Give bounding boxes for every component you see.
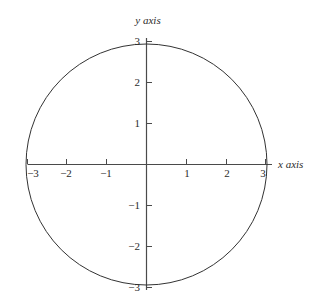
- x-axis-label: x axis: [277, 158, 303, 170]
- y-tick-label-pos3: 3: [135, 35, 141, 47]
- x-tick-label-neg3: −3: [27, 167, 39, 179]
- x-tick-label-pos2: 2: [224, 167, 230, 179]
- y-axis-label: y axis: [134, 14, 160, 26]
- y-tick-label-neg2: −2: [128, 240, 140, 252]
- x-tick-label-neg2: −2: [60, 167, 72, 179]
- y-tick-label-neg3: −3: [128, 281, 140, 293]
- y-tick-label-pos1: 1: [135, 117, 141, 129]
- x-tick-label-pos3: 3: [260, 167, 266, 179]
- plot-canvas: −3 −2 −1 1 2 3 3 2 1 −1 −2 −3 y axis x a…: [0, 0, 316, 302]
- x-tick-label-pos1: 1: [184, 167, 190, 179]
- coordinate-plane-figure: −3 −2 −1 1 2 3 3 2 1 −1 −2 −3 y axis x a…: [0, 0, 316, 302]
- plot-background: [0, 0, 316, 302]
- y-tick-label-neg1: −1: [128, 199, 140, 211]
- y-tick-label-pos2: 2: [135, 76, 141, 88]
- x-tick-label-neg1: −1: [100, 167, 112, 179]
